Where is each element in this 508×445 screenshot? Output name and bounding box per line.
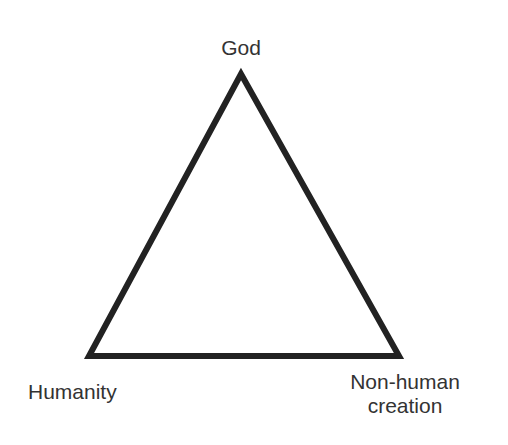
label-line-2: creation (330, 394, 480, 418)
vertex-label-non-human-creation: Non-human creation (330, 370, 480, 418)
triangle-diagram: God Humanity Non-human creation (0, 0, 508, 445)
vertex-label-humanity: Humanity (28, 380, 158, 404)
vertex-label-god: God (211, 36, 271, 60)
label-line-1: Non-human (330, 370, 480, 394)
